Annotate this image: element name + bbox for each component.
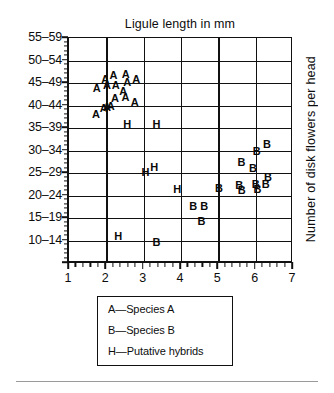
x-tick-minor [284,262,285,267]
x-tick-minor [127,262,128,267]
x-tick-minor [194,262,195,267]
x-tick-label: 3 [139,271,146,285]
data-point-h: H [150,161,158,172]
data-point-a: A [111,93,119,104]
x-tick-minor [135,262,136,267]
data-point-b: B [249,162,257,173]
data-point-b: B [262,179,270,190]
gridline-horizontal [69,128,291,129]
gridline-horizontal [69,241,291,242]
x-tick-label: 4 [177,271,184,285]
data-point-h: H [142,167,150,178]
y-tick-label: 10–14 [28,233,62,247]
data-point-b: B [253,145,261,156]
x-tick-minor [82,262,83,267]
y-tick-label: 40–44 [28,98,62,112]
y-tick-label: 20–24 [28,188,62,202]
data-point-h: H [173,183,181,194]
x-tick-major [179,262,181,269]
y-tick-label: 55–59 [28,30,62,44]
x-tick-major [105,262,107,269]
x-tick-major [291,262,293,269]
data-point-b: B [198,215,206,226]
chart-title: Ligule length in mm [68,17,292,31]
plot-area: AAAAAAAAAAAAAAAABBBBBBBBBBBBBBBHHHHHH [68,37,292,262]
y-tick-label: 35–39 [28,120,62,134]
legend-entry: H—Putative hybrids [108,345,232,357]
data-point-a: A [103,79,111,90]
y-axis-line [67,37,69,262]
x-tick-minor [120,262,121,267]
x-tick-major [67,262,69,269]
gridline-horizontal [69,173,291,174]
x-tick-minor [209,262,210,267]
y-axis-tick-labels: 55–5950–5445–4940–4435–3930–3425–2920–24… [0,37,62,262]
data-point-a: A [93,82,101,93]
x-tick-minor [187,262,188,267]
x-tick-minor [75,262,76,267]
x-tick-minor [276,262,277,267]
gridline-horizontal [69,196,291,197]
gridline-horizontal [69,218,291,219]
gridline-vertical [218,38,219,261]
data-point-a: A [121,91,129,102]
x-tick-minor [112,262,113,267]
x-tick-minor [90,262,91,267]
x-tick-minor [157,262,158,267]
legend-entry: B—Species B [108,324,232,336]
x-tick-minor [97,262,98,267]
data-point-b: B [200,201,208,212]
x-tick-major [142,262,144,269]
gridline-horizontal [69,61,291,62]
y-tick-label: 25–29 [28,165,62,179]
footer-divider [16,381,318,382]
gridline-vertical [144,38,145,261]
data-point-h: H [123,118,131,129]
legend-entry: A—Species A [108,303,232,315]
x-tick-minor [150,262,151,267]
data-point-h: H [152,118,160,129]
data-point-a: A [132,73,140,84]
chart-legend: A—Species AB—Species BH—Putative hybrids [97,296,233,366]
x-tick-major [254,262,256,269]
x-tick-minor [269,262,270,267]
data-point-h: H [114,231,122,242]
x-tick-minor [247,262,248,267]
gridline-vertical [181,38,182,261]
x-tick-minor [224,262,225,267]
x-tick-label: 7 [289,271,296,285]
data-point-b: B [215,182,223,193]
y-tick-label: 30–34 [28,143,62,157]
x-tick-major [217,262,219,269]
x-tick-minor [164,262,165,267]
y-tick-label: 15–19 [28,210,62,224]
x-tick-label: 5 [214,271,221,285]
data-point-a: A [131,96,139,107]
x-tick-minor [239,262,240,267]
y-axis-title: Number of disk flowers per head [300,37,322,262]
scatter-plot-figure: Ligule length in mm AAAAAAAAAAAAAAAABBBB… [0,0,334,393]
data-point-b: B [254,184,262,195]
x-tick-label: 2 [102,271,109,285]
x-tick-minor [202,262,203,267]
data-point-b: B [152,237,160,248]
y-tick-label: 50–54 [28,53,62,67]
data-point-b: B [189,201,197,212]
y-tick-label: 45–49 [28,75,62,89]
data-point-b: B [263,139,271,150]
x-tick-minor [232,262,233,267]
data-point-b: B [238,184,246,195]
x-tick-label: 6 [251,271,258,285]
y-axis-title-text: Number of disk flowers per head [304,56,318,242]
data-point-a: A [92,108,100,119]
data-point-b: B [237,157,245,168]
x-tick-minor [262,262,263,267]
x-tick-minor [172,262,173,267]
x-tick-label: 1 [65,271,72,285]
